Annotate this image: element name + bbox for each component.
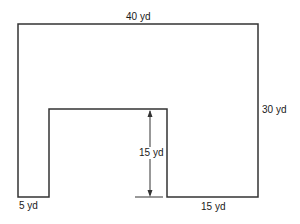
arrowhead-up-icon — [148, 110, 153, 117]
diagram-canvas: 40 yd 30 yd 15 yd 5 yd 15 yd — [0, 0, 300, 224]
label-right-height: 30 yd — [262, 105, 286, 115]
label-top-width: 40 yd — [126, 12, 150, 22]
label-notch-height: 15 yd — [139, 147, 163, 159]
u-shape-figure — [0, 0, 300, 224]
shape-outline — [18, 24, 258, 197]
arrowhead-down-icon — [148, 190, 153, 197]
label-bottom-left-width: 5 yd — [19, 201, 38, 211]
label-bottom-right-width: 15 yd — [201, 202, 225, 212]
